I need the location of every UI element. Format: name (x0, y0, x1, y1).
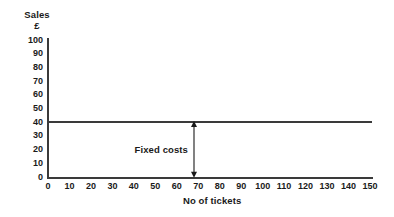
x-axis-tick-label: 30 (107, 182, 117, 191)
y-axis-tick-label: 30 (0, 131, 43, 140)
x-axis-tick-label: 10 (64, 182, 74, 191)
x-axis-tick-label: 120 (298, 182, 313, 191)
y-axis-tick-label: 10 (0, 159, 43, 168)
x-axis-tick-label: 0 (45, 182, 50, 191)
y-axis-tick-labels: 0102030405060708090100 (0, 0, 43, 217)
x-axis-tick-label: 20 (86, 182, 96, 191)
x-axis-tick-label: 80 (215, 182, 225, 191)
x-axis-tick-label: 110 (277, 182, 292, 191)
x-axis-title: No of tickets (183, 195, 241, 206)
x-axis-line (47, 177, 373, 179)
y-axis-tick-label: 60 (0, 90, 43, 99)
y-axis-tick-label: 90 (0, 49, 43, 58)
x-axis-tick-label: 60 (172, 182, 182, 191)
x-axis-tick-label: 40 (129, 182, 139, 191)
y-axis-tick-label: 70 (0, 77, 43, 86)
x-axis-tick-label: 140 (341, 182, 356, 191)
y-axis-tick-label: 50 (0, 104, 43, 113)
fixed-costs-annotation-label: Fixed costs (135, 145, 188, 155)
y-axis-tick-label: 100 (0, 36, 43, 45)
fixed-costs-arrow-icon (186, 114, 202, 185)
y-axis-tick-label: 40 (0, 118, 43, 127)
x-axis-tick-label: 90 (236, 182, 246, 191)
y-axis-tick-label: 20 (0, 145, 43, 154)
y-axis-tick-label: 0 (0, 173, 43, 182)
x-axis-tick-label: 130 (320, 182, 335, 191)
chart-canvas: Sales £ 0102030405060708090100 010203040… (0, 0, 394, 217)
x-axis-tick-label: 50 (150, 182, 160, 191)
x-axis-tick-label: 150 (362, 182, 377, 191)
y-axis-tick-label: 80 (0, 63, 43, 72)
series-line-fixed-costs (47, 121, 372, 123)
x-axis-tick-label: 100 (255, 182, 270, 191)
y-axis-line (47, 38, 49, 179)
